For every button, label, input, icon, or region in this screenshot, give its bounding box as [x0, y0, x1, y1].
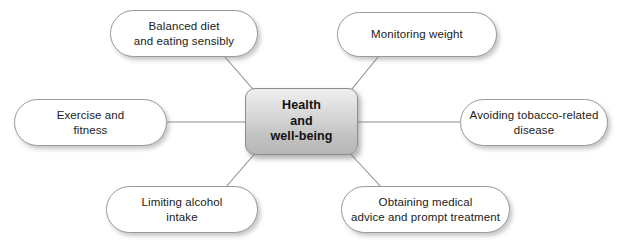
- diagram-canvas: Health and well-being Balanced diet and …: [0, 0, 623, 244]
- node-exercise-fitness[interactable]: Exercise and fitness: [14, 99, 167, 146]
- node-obtaining-medical[interactable]: Obtaining medical advice and prompt trea…: [341, 186, 510, 233]
- central-node-label: Health and well-being: [262, 98, 340, 145]
- node-avoiding-tobacco-label: Avoiding tobacco-related disease: [462, 108, 607, 137]
- node-avoiding-tobacco[interactable]: Avoiding tobacco-related disease: [460, 99, 608, 146]
- node-monitoring-weight[interactable]: Monitoring weight: [337, 12, 497, 57]
- node-balanced-diet[interactable]: Balanced diet and eating sensibly: [110, 10, 258, 57]
- node-balanced-diet-label: Balanced diet and eating sensibly: [126, 19, 242, 48]
- connector-obtaining-medical: [347, 150, 382, 188]
- node-limiting-alcohol-label: Limiting alcohol intake: [134, 195, 231, 224]
- central-node[interactable]: Health and well-being: [245, 88, 358, 155]
- node-obtaining-medical-label: Obtaining medical advice and prompt trea…: [343, 195, 508, 224]
- node-exercise-fitness-label: Exercise and fitness: [49, 108, 133, 137]
- node-monitoring-weight-label: Monitoring weight: [363, 27, 471, 42]
- node-limiting-alcohol[interactable]: Limiting alcohol intake: [106, 186, 258, 233]
- connector-limiting-alcohol: [225, 150, 258, 188]
